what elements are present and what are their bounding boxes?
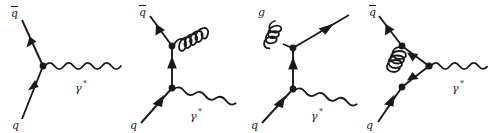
- photon-star-text: *: [319, 107, 323, 116]
- quark-label: q: [251, 119, 258, 132]
- loop-vertex-lower: [399, 84, 406, 91]
- gluon-absorption-vertex: [290, 45, 297, 52]
- photon-label-text: γ: [75, 82, 82, 95]
- feynman-diagram-figure: q q γ * q q γ: [0, 0, 489, 133]
- quark-label: q: [130, 119, 137, 132]
- antiquark-label: q: [369, 6, 376, 20]
- photon-label-text: γ: [311, 110, 318, 123]
- quark-label: q: [12, 119, 19, 132]
- antiquark-label: q: [139, 6, 146, 20]
- antiquark-label-text: q: [139, 6, 146, 19]
- feynman-diagrams-svg: q q γ * q q γ: [0, 0, 489, 133]
- gluon-emission-vertex: [169, 43, 176, 50]
- antiquark-label-text: q: [11, 7, 18, 20]
- photon-star-text: *: [460, 79, 464, 88]
- photon-star-text: *: [83, 79, 87, 88]
- gluon-label: g: [258, 6, 265, 19]
- photon-star-text: *: [198, 107, 202, 116]
- antiquark-label-text: q: [369, 6, 376, 19]
- quark-label: q: [366, 119, 373, 132]
- antiquark-label: q: [11, 7, 18, 21]
- loop-vertex-upper: [399, 43, 406, 50]
- photon-label-text: γ: [452, 82, 459, 95]
- photon-label-text: γ: [190, 110, 197, 123]
